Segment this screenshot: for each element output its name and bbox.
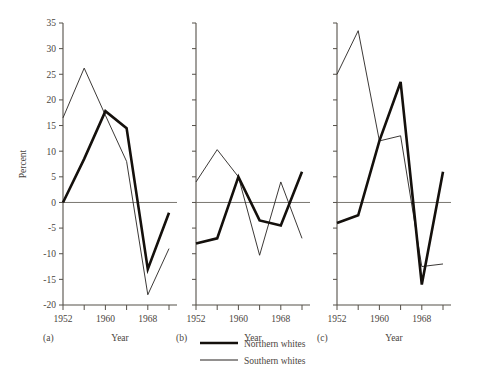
legend-label: Northern whites [244, 339, 306, 349]
multi-panel-line-chart: -20-15-10-505101520253035195219601968(a)… [0, 0, 477, 383]
y-tick-label: 15 [47, 121, 57, 131]
panel-b: 195219601968(b)Year [176, 23, 310, 344]
x-tick-label: 1960 [370, 314, 389, 324]
x-axis-title: Year [385, 333, 403, 343]
series-line-northern-whites [196, 172, 302, 244]
panel-label: (a) [43, 333, 54, 344]
series-line-northern-whites [337, 82, 443, 285]
series-line-southern-whites [337, 31, 443, 267]
y-tick-label: 35 [47, 18, 57, 28]
x-tick-label: 1960 [96, 314, 115, 324]
panel-label: (c) [317, 333, 328, 344]
panel-a: -20-15-10-505101520253035195219601968(a)… [43, 18, 177, 344]
x-tick-label: 1968 [271, 314, 290, 324]
y-tick-label: -15 [43, 275, 56, 285]
y-tick-label: -20 [43, 300, 56, 310]
x-tick-label: 1952 [187, 314, 206, 324]
y-tick-label: -5 [48, 223, 56, 233]
y-tick-label: 30 [47, 44, 57, 54]
y-tick-label: 5 [51, 172, 56, 182]
x-axis-title: Year [111, 333, 129, 343]
y-tick-label: 20 [47, 95, 57, 105]
x-tick-label: 1968 [412, 314, 431, 324]
panel-label: (b) [176, 333, 187, 344]
x-tick-label: 1952 [54, 314, 73, 324]
series-line-southern-whites [63, 68, 169, 295]
y-tick-label: -10 [43, 249, 56, 259]
x-tick-label: 1968 [138, 314, 157, 324]
y-tick-label: 0 [51, 198, 56, 208]
y-tick-label: 25 [47, 70, 57, 80]
series-line-northern-whites [63, 111, 169, 269]
figure-container: -20-15-10-505101520253035195219601968(a)… [0, 0, 477, 383]
y-tick-label: 10 [47, 147, 57, 157]
panel-c: 195219601968(c)Year [317, 23, 451, 344]
legend-label: Southern whites [244, 356, 306, 366]
x-tick-label: 1960 [229, 314, 248, 324]
x-tick-label: 1952 [328, 314, 347, 324]
chart-legend: Northern whitesSouthern whites [200, 339, 306, 366]
y-axis-title: Percent [18, 149, 28, 178]
